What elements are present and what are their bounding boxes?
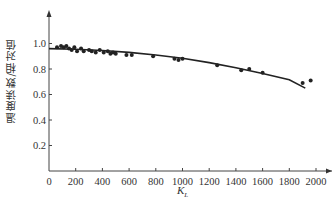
svg-text:200: 200 (68, 176, 84, 187)
y-axis-label: 温度读数/相对值 (3, 38, 17, 123)
svg-text:0.4: 0.4 (33, 115, 47, 126)
svg-text:600: 600 (121, 176, 137, 187)
x-axis-label: KL (177, 184, 188, 199)
axes (47, 10, 333, 174)
svg-text:1400: 1400 (225, 176, 246, 187)
svg-text:1.0: 1.0 (33, 38, 46, 49)
svg-text:1200: 1200 (199, 176, 220, 187)
fit-curve (49, 49, 305, 89)
svg-text:0.8: 0.8 (33, 64, 46, 75)
svg-text:400: 400 (95, 176, 111, 187)
svg-text:1600: 1600 (252, 176, 273, 187)
svg-text:800: 800 (148, 176, 164, 187)
svg-text:0: 0 (46, 176, 51, 187)
chart-plot: 02004006008001000120014001600180020000.2… (0, 0, 336, 211)
svg-text:0.2: 0.2 (33, 140, 46, 151)
x-label-sub: L (184, 191, 188, 199)
svg-text:2000: 2000 (306, 176, 327, 187)
svg-text:1800: 1800 (279, 176, 300, 187)
svg-text:0.6: 0.6 (33, 89, 46, 100)
